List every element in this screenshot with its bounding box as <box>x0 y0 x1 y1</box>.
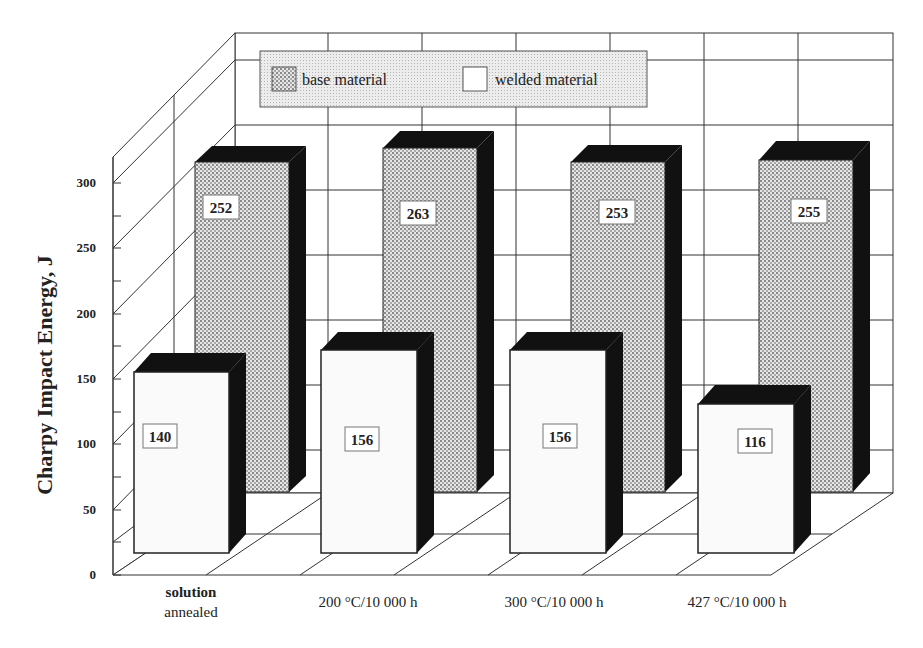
legend-label-welded: welded material <box>495 71 598 88</box>
x-axis-categories: solution annealed 200 °C/10 000 h 300 °C… <box>164 584 787 620</box>
category-427c: 427 °C/10 000 h <box>688 594 787 610</box>
legend-swatch-welded <box>463 67 487 91</box>
value-label: 263 <box>407 206 430 222</box>
value-label: 255 <box>798 204 821 220</box>
value-label: 253 <box>606 205 629 221</box>
y-tick-250: 250 <box>77 240 97 255</box>
y-axis-label: Charpy Impact Energy, J <box>32 255 57 495</box>
bar-welded-200c: 156 <box>321 332 434 553</box>
y-tick-100: 100 <box>77 436 97 451</box>
value-label: 252 <box>210 200 233 216</box>
value-label: 116 <box>744 434 766 450</box>
bar-chart-3d: 0 50 100 150 200 250 300 Charpy Impact E… <box>0 0 923 648</box>
y-tick-300: 300 <box>77 175 97 190</box>
bar-welded-300c: 156 <box>510 332 623 553</box>
value-label: 156 <box>351 432 374 448</box>
legend-swatch-base <box>272 67 296 91</box>
category-200c: 200 °C/10 000 h <box>319 594 418 610</box>
y-tick-150: 150 <box>77 371 97 386</box>
category-300c: 300 °C/10 000 h <box>505 594 604 610</box>
category-solution-annealed-line1: solution <box>166 584 218 600</box>
y-tick-50: 50 <box>83 502 96 517</box>
bar-welded-427c: 116 <box>698 385 811 553</box>
bar-welded-solution-annealed: 140 <box>134 353 246 553</box>
y-tick-200: 200 <box>77 306 97 321</box>
y-axis: 0 50 100 150 200 250 300 Charpy Impact E… <box>32 157 121 582</box>
category-solution-annealed-line2: annealed <box>164 604 218 620</box>
value-label: 156 <box>549 429 572 445</box>
value-label: 140 <box>149 429 172 445</box>
legend: base material welded material <box>260 51 647 107</box>
y-tick-0: 0 <box>90 567 97 582</box>
legend-label-base: base material <box>302 71 387 88</box>
